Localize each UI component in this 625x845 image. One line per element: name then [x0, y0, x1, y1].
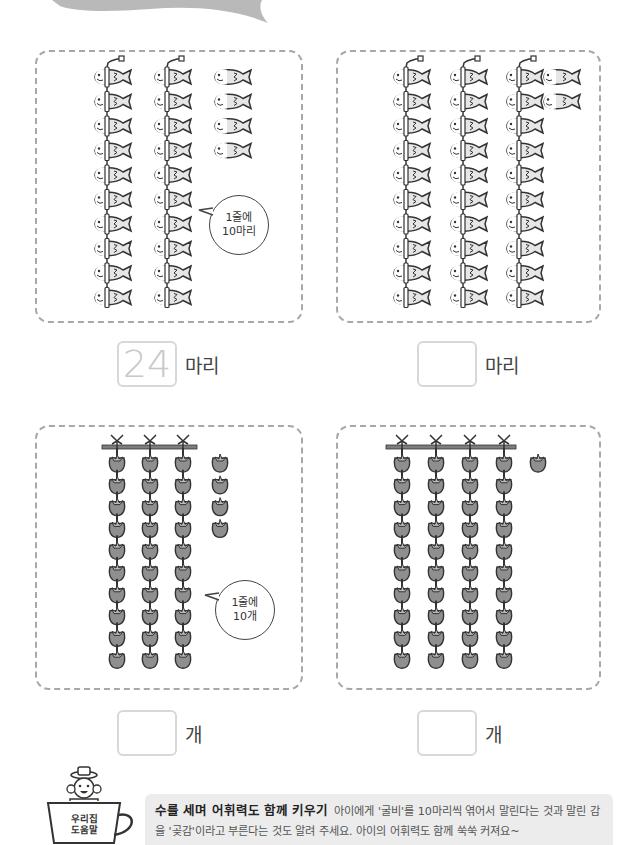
- answer-box[interactable]: [417, 710, 477, 756]
- dried-persimmon-icon: [212, 498, 227, 516]
- dried-persimmon-icon: [142, 492, 157, 516]
- string-hook-icon: [463, 59, 476, 67]
- drying-rod: [386, 445, 516, 449]
- dried-persimmon-icon: [142, 513, 157, 537]
- dried-persimmon-icon: [109, 622, 124, 646]
- fish-icon: [95, 165, 131, 185]
- dried-persimmon-icon: [462, 470, 477, 494]
- fish-icon: [451, 214, 487, 234]
- fish-icon: [507, 214, 543, 234]
- fish-icon: [394, 92, 430, 112]
- dried-persimmon-icon: [175, 644, 190, 668]
- fish-icon: [215, 94, 251, 109]
- fish-icon: [95, 288, 131, 308]
- dried-persimmon-icon: [428, 448, 443, 472]
- fish-icon: [507, 263, 543, 283]
- fish-icon: [451, 190, 487, 210]
- dried-persimmon-icon: [496, 601, 511, 625]
- dried-persimmon-icon: [428, 557, 443, 581]
- dried-persimmon-icon: [142, 557, 157, 581]
- dried-persimmon-icon: [462, 557, 477, 581]
- persimmon-illustration: [338, 427, 599, 688]
- fish-icon: [507, 165, 543, 185]
- string-hook-icon: [107, 59, 120, 67]
- fish-icon: [155, 190, 191, 210]
- fish-icon: [155, 165, 191, 185]
- fish-icon: [215, 119, 251, 134]
- dried-persimmon-icon: [394, 470, 409, 494]
- dried-persimmon-icon: [462, 535, 477, 559]
- fish-icon: [95, 263, 131, 283]
- dried-persimmon-icon: [496, 513, 511, 537]
- fish-icon: [507, 239, 543, 259]
- dried-persimmon-icon: [462, 601, 477, 625]
- fish-exercise-panel: [336, 50, 601, 323]
- tip-text-box: 수를 세며 어휘력도 함께 키우기아이에게 '굴비'를 10마리씩 엮어서 말린…: [145, 794, 613, 845]
- string-hook-icon: [167, 59, 180, 67]
- dried-persimmon-icon: [428, 492, 443, 516]
- dried-persimmon-icon: [530, 454, 545, 472]
- dried-persimmon-icon: [142, 535, 157, 559]
- dried-persimmon-icon: [428, 470, 443, 494]
- dried-persimmon-icon: [175, 535, 190, 559]
- answer-unit: 마리: [185, 351, 219, 378]
- fish-icon: [507, 67, 543, 87]
- cup-label-line2: 도움말: [60, 824, 108, 835]
- bubble-text-line1: 1줄에: [226, 211, 253, 225]
- fish-icon: [95, 214, 131, 234]
- dried-persimmon-icon: [462, 513, 477, 537]
- fish-icon: [95, 92, 131, 112]
- dried-persimmon-icon: [394, 535, 409, 559]
- fish-icon: [394, 263, 430, 283]
- dried-persimmon-icon: [496, 448, 511, 472]
- dried-persimmon-icon: [109, 644, 124, 668]
- dried-persimmon-icon: [212, 476, 227, 494]
- fish-icon: [394, 165, 430, 185]
- dried-persimmon-icon: [212, 454, 227, 472]
- fish-exercise-answer: 마리: [417, 341, 519, 387]
- dried-persimmon-icon: [496, 535, 511, 559]
- dried-persimmon-icon: [109, 448, 124, 472]
- fish-icon: [394, 141, 430, 161]
- dried-persimmon-icon: [142, 448, 157, 472]
- string-hook-icon: [406, 59, 419, 67]
- dried-persimmon-icon: [109, 601, 124, 625]
- fish-icon: [451, 141, 487, 161]
- fish-icon: [95, 141, 131, 161]
- fish-icon: [155, 263, 191, 283]
- bubble-text-line2: 10개: [233, 610, 257, 624]
- answer-box[interactable]: [417, 341, 477, 387]
- fish-icon: [507, 141, 543, 161]
- fish-icon: [394, 116, 430, 136]
- dried-persimmon-icon: [109, 513, 124, 537]
- speech-bubble: 1줄에 10마리: [209, 195, 269, 255]
- dried-persimmon-icon: [428, 513, 443, 537]
- dried-persimmon-icon: [142, 579, 157, 603]
- dried-persimmon-icon: [109, 579, 124, 603]
- dried-persimmon-icon: [428, 579, 443, 603]
- dried-persimmon-icon: [109, 557, 124, 581]
- dried-persimmon-icon: [428, 644, 443, 668]
- dried-persimmon-icon: [212, 519, 227, 537]
- fish-icon: [155, 67, 191, 87]
- answer-box[interactable]: 24: [117, 341, 177, 387]
- bubble-tail: [204, 591, 220, 601]
- fish-icon: [215, 70, 251, 85]
- fish-icon: [394, 190, 430, 210]
- dried-persimmon-icon: [462, 622, 477, 646]
- answer-box[interactable]: [117, 710, 177, 756]
- fish-icon: [215, 143, 251, 158]
- tip-title: 수를 세며 어휘력도 함께 키우기: [155, 803, 328, 818]
- dried-persimmon-icon: [175, 579, 190, 603]
- fish-icon: [507, 92, 543, 112]
- fish-icon: [394, 288, 430, 308]
- fish-icon: [394, 214, 430, 234]
- fish-icon: [155, 288, 191, 308]
- dried-persimmon-icon: [175, 601, 190, 625]
- fish-icon: [451, 288, 487, 308]
- dried-persimmon-icon: [394, 601, 409, 625]
- dried-persimmon-icon: [496, 492, 511, 516]
- dried-persimmon-icon: [428, 601, 443, 625]
- bubble-tail: [198, 206, 214, 216]
- speech-bubble: 1줄에 10개: [215, 580, 275, 640]
